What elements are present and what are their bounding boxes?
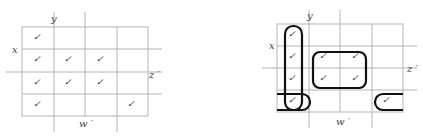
label-y: y [307,11,313,21]
right-kmap: y x z ′ w ′ ✓✓✓✓✓✓✓✓✓ [0,0,423,139]
label-z-prime: z ′ [407,64,418,74]
right-kmap-grid [0,0,423,139]
label-x: x [269,41,275,51]
label-w-prime: w ′ [336,117,350,127]
